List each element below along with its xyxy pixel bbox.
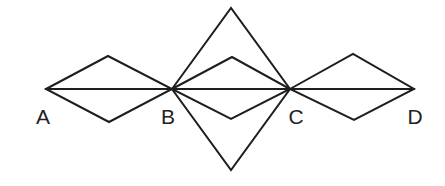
small-rhombus-CD <box>290 54 414 120</box>
point-label-B: B <box>161 106 175 127</box>
geometry-diagram <box>0 0 445 186</box>
point-label-A: A <box>36 106 50 127</box>
point-label-C: C <box>288 106 303 127</box>
point-label-D: D <box>407 106 422 127</box>
